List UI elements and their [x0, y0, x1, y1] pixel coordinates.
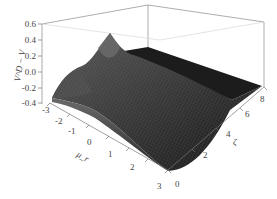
- svg-text:2: 2: [203, 150, 208, 160]
- svg-text:6: 6: [245, 109, 250, 119]
- svg-text:2: 2: [130, 162, 135, 172]
- svg-text:-2: -2: [55, 116, 63, 126]
- z-axis: 0.6 0.4 0.2 0.0 -0.2 -0.4 V^D − V: [12, 19, 42, 108]
- svg-text:0.0: 0.0: [25, 67, 37, 77]
- z-axis-label: V^D − V: [12, 48, 28, 83]
- svg-text:3: 3: [157, 181, 162, 191]
- svg-text:-1: -1: [68, 126, 76, 136]
- y-axis-label: ζ: [233, 137, 238, 147]
- x-axis-label: μ_r: [74, 149, 91, 165]
- svg-text:0.6: 0.6: [25, 19, 37, 29]
- svg-text:0: 0: [175, 179, 180, 189]
- svg-text:4: 4: [226, 129, 231, 139]
- svg-text:-0.2: -0.2: [22, 83, 36, 93]
- svg-text:8: 8: [260, 94, 265, 104]
- surface-plot: 0.6 0.4 0.2 0.0 -0.2 -0.4 V^D − V -3 -2 …: [0, 0, 277, 199]
- svg-text:0.4: 0.4: [25, 35, 37, 45]
- svg-text:0: 0: [87, 137, 92, 147]
- svg-text:-0.4: -0.4: [22, 98, 37, 108]
- svg-text:-3: -3: [42, 105, 50, 115]
- svg-text:1: 1: [108, 149, 113, 159]
